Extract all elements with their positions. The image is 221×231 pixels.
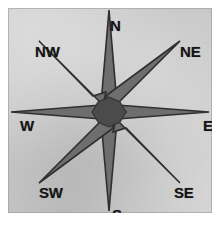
direction-label-n: N (110, 18, 121, 33)
direction-label-sw: SW (39, 185, 63, 200)
compass-rose-figure: N NE E SE S SW W NW (0, 0, 221, 231)
ray-se (113, 119, 180, 183)
direction-label-nw: NW (35, 44, 60, 59)
figure-panel: N NE E SE S SW W NW (8, 8, 212, 213)
direction-label-e: E (203, 118, 212, 133)
direction-label-ne: NE (180, 44, 200, 59)
direction-label-w: W (20, 118, 34, 133)
compass-hub (92, 97, 126, 127)
direction-label-s: S (112, 207, 122, 213)
direction-label-se: SE (174, 185, 194, 200)
compass-rose-graphic (8, 8, 212, 213)
